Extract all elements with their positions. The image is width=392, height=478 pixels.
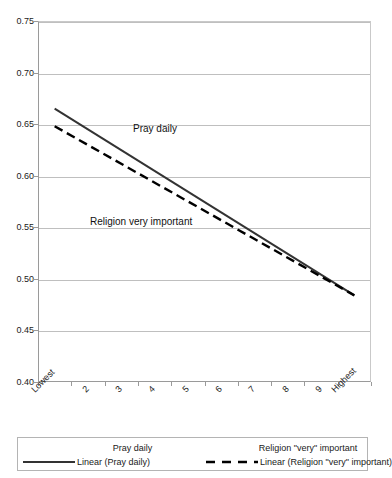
x-tick-label: 2 xyxy=(81,384,91,394)
x-tick-label: 7 xyxy=(247,384,257,394)
y-tick-mark xyxy=(33,176,38,177)
y-tick-mark xyxy=(33,21,38,22)
annotation-pray-daily: Pray daily xyxy=(133,123,177,134)
gridline xyxy=(39,74,370,75)
x-tick-mark xyxy=(371,382,372,386)
annotation-religion-very-important: Religion very important xyxy=(90,216,192,227)
legend-label: Religion "very" important xyxy=(259,443,357,453)
x-tick-mark xyxy=(105,382,106,386)
gridline xyxy=(39,177,370,178)
legend-item-pray-daily[interactable]: Pray daily xyxy=(18,443,193,453)
x-tick-label: 5 xyxy=(181,384,191,394)
gridline xyxy=(39,228,370,229)
y-tick-label: 0.55 xyxy=(2,223,34,232)
y-tick-mark xyxy=(33,227,38,228)
x-tick-mark xyxy=(138,382,139,386)
x-tick-mark xyxy=(238,382,239,386)
legend-key-solid-line-icon xyxy=(23,457,75,467)
gridline xyxy=(39,280,370,281)
y-tick-label: 0.60 xyxy=(2,171,34,180)
x-tick-mark xyxy=(205,382,206,386)
legend-item-linear-religion-very-important[interactable]: Linear (Religion "very" important) xyxy=(206,457,392,467)
gridline xyxy=(39,22,370,23)
y-tick-label: 0.65 xyxy=(2,120,34,129)
legend-item-religion-very-important[interactable]: Religion "very" important xyxy=(193,443,369,453)
y-axis: 0.75 0.70 0.65 0.60 0.55 0.50 0.45 0.40 xyxy=(0,21,34,382)
plot-area xyxy=(38,21,371,382)
chart-legend: Pray daily Religion "very" important Lin… xyxy=(17,437,368,471)
legend-label: Linear (Religion "very" important) xyxy=(260,457,392,467)
gridline xyxy=(39,125,370,126)
x-tick-mark xyxy=(71,382,72,386)
legend-item-linear-pray-daily[interactable]: Linear (Pray daily) xyxy=(23,457,150,467)
y-tick-label: 0.75 xyxy=(2,17,34,26)
x-tick-mark xyxy=(171,382,172,386)
y-tick-mark xyxy=(33,330,38,331)
x-tick-label: 9 xyxy=(314,384,324,394)
y-tick-mark xyxy=(33,279,38,280)
x-tick-label: 6 xyxy=(214,384,224,394)
y-tick-label: 0.50 xyxy=(2,274,34,283)
x-tick-label: 8 xyxy=(281,384,291,394)
y-tick-label: 0.70 xyxy=(2,68,34,77)
y-tick-label: 0.40 xyxy=(2,378,34,387)
gridline xyxy=(39,331,370,332)
y-tick-label: 0.45 xyxy=(2,326,34,335)
legend-label: Pray daily xyxy=(113,443,153,453)
legend-label: Linear (Pray daily) xyxy=(77,457,150,467)
x-tick-mark xyxy=(304,382,305,386)
x-tick-label: 4 xyxy=(147,384,157,394)
legend-key-dashed-line-icon xyxy=(206,457,258,467)
y-tick-mark xyxy=(33,124,38,125)
x-tick-mark xyxy=(271,382,272,386)
x-tick-label: 3 xyxy=(114,384,124,394)
y-tick-mark xyxy=(33,73,38,74)
